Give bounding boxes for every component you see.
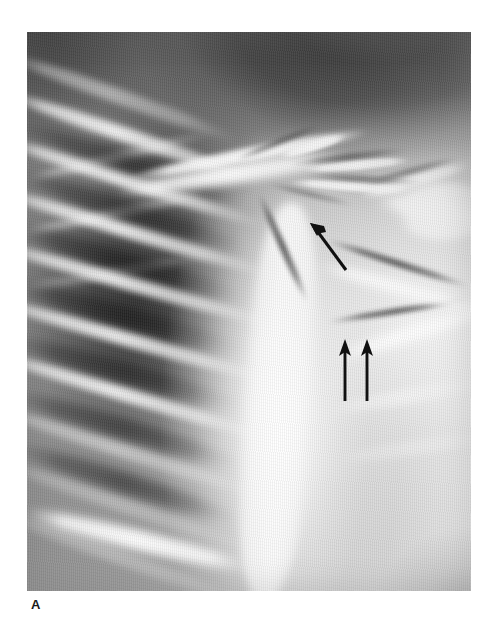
- vertical-arrow-left: [339, 339, 351, 401]
- oblique-arrow: [310, 223, 346, 270]
- annotation-arrow-overlay: [27, 32, 471, 591]
- figure-root: A: [0, 0, 492, 622]
- vertical-arrow-right: [361, 339, 373, 401]
- chest-radiograph-image: [27, 32, 471, 591]
- figure-panel-label: A: [31, 598, 40, 611]
